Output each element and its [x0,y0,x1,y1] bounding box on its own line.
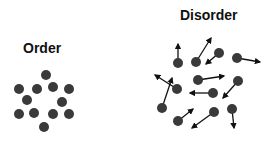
particle-dot [191,57,201,67]
particle-dot [29,108,39,118]
particle-dot [227,104,237,114]
particle-dot [233,76,243,86]
particle-dot [209,107,219,117]
disorder-particles [155,38,260,128]
particle-dot [214,48,224,58]
particle-dot [157,103,167,113]
particle-dot [208,88,218,98]
particle-dot [14,84,24,94]
particle-dot [64,84,74,94]
particle-dot [39,122,49,132]
particle-dot [173,116,183,126]
order-particles [14,70,74,132]
particle-dot [232,53,242,63]
particle-dot [57,97,67,107]
particle-dot [32,84,42,94]
particle-dot [173,58,183,68]
particle-diagram [0,0,261,149]
particle-dot [48,109,58,119]
particle-dot [22,95,32,105]
particle-dot [64,109,74,119]
particle-dot [48,82,58,92]
particle-dot [193,75,203,85]
particle-dot [41,70,51,80]
particle-dot [14,109,24,119]
particle-dot [172,84,182,94]
